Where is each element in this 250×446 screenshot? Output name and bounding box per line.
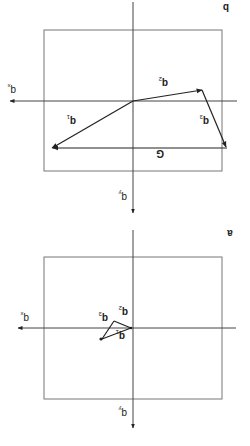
panel-a-label: a: [227, 228, 233, 239]
panel-b: b qx qy q1 q2 q3 G: [7, 2, 237, 213]
panel-a-x-axis-label: qx: [20, 311, 29, 324]
panel-b-q1-label: q1: [66, 114, 76, 127]
panel-b-x-axis-label: qx: [7, 83, 16, 96]
panel-a-vector-q2: [114, 321, 131, 328]
panel-b-q2-label: q2: [158, 76, 168, 89]
panel-b-G-label: G: [156, 148, 164, 159]
panel-a-vector-endpoint: [99, 337, 102, 340]
panel-a-q3-label: q3: [98, 311, 108, 324]
panel-a: a qx qy q1 q2 q3: [18, 228, 236, 428]
panel-b-vector-q2: [133, 90, 202, 101]
panel-b-vector-q1: [52, 101, 133, 148]
panel-a-y-axis-label: qy: [118, 406, 127, 419]
vector-diagram: b qx qy q1 q2 q3 G a: [0, 0, 250, 446]
panel-b-q3-label: q3: [199, 114, 209, 127]
panel-b-label: b: [223, 2, 229, 13]
panel-a-q2-label: q2: [118, 305, 128, 318]
panel-a-origin-point: [130, 327, 133, 330]
panel-b-y-axis-label: qy: [118, 190, 127, 203]
